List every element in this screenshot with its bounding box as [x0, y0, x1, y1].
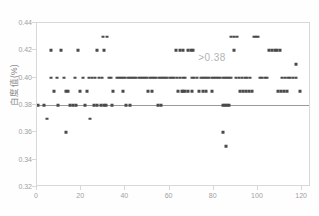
- data-point: [46, 117, 49, 120]
- data-point: [95, 104, 98, 107]
- data-point: [42, 104, 45, 107]
- data-point: [250, 90, 253, 93]
- x-tick-mark: [36, 186, 37, 190]
- data-point: [230, 76, 233, 79]
- data-point: [50, 49, 53, 52]
- data-point: [73, 76, 76, 79]
- data-point: [128, 104, 131, 107]
- data-point: [60, 49, 63, 52]
- data-point: [190, 90, 193, 93]
- data-point: [235, 35, 238, 38]
- data-point: [84, 104, 87, 107]
- data-point: [249, 76, 252, 79]
- data-point: [81, 76, 84, 79]
- data-point: [298, 90, 301, 93]
- reference-line: [37, 105, 310, 106]
- data-point: [100, 76, 103, 79]
- data-point: [112, 90, 115, 93]
- data-point: [50, 76, 53, 79]
- data-point: [64, 131, 67, 134]
- data-point: [124, 104, 127, 107]
- data-point: [57, 104, 60, 107]
- x-tick-label: 60: [154, 192, 184, 199]
- data-point: [111, 104, 114, 107]
- data-point: [75, 104, 78, 107]
- data-point: [256, 35, 259, 38]
- data-point: [52, 90, 55, 93]
- data-point: [295, 76, 298, 79]
- y-tick-label: 0.44: [4, 19, 32, 26]
- data-point: [63, 76, 66, 79]
- data-point: [67, 90, 70, 93]
- x-tick-mark: [257, 186, 258, 190]
- x-tick-label: 20: [65, 192, 95, 199]
- data-point: [55, 76, 58, 79]
- data-point: [184, 76, 187, 79]
- data-point: [221, 131, 224, 134]
- y-tick-label: 0.32: [4, 183, 32, 190]
- data-point: [105, 35, 108, 38]
- y-tick-label: 0.34: [4, 155, 32, 162]
- chart-root: 白度值(%) 0.440.420.400.380.360.340.32 0204…: [0, 0, 319, 216]
- data-point: [89, 117, 92, 120]
- x-tick-mark: [213, 186, 214, 190]
- data-point: [232, 49, 235, 52]
- x-tick-label: 100: [242, 192, 272, 199]
- data-point: [265, 76, 268, 79]
- data-point: [225, 145, 228, 148]
- data-point: [159, 104, 162, 107]
- data-point: [279, 49, 282, 52]
- data-point: [285, 90, 288, 93]
- data-point: [192, 49, 195, 52]
- data-point: [37, 104, 40, 107]
- data-point: [85, 90, 88, 93]
- data-point: [180, 90, 183, 93]
- data-point: [122, 90, 125, 93]
- y-axis-title: 白度值(%): [7, 45, 21, 125]
- data-point: [228, 104, 231, 107]
- x-tick-label: 80: [198, 192, 228, 199]
- data-point: [294, 63, 297, 66]
- data-point: [93, 76, 96, 79]
- data-point: [110, 76, 113, 79]
- x-tick-mark: [301, 186, 302, 190]
- y-tick-label: 0.36: [4, 128, 32, 135]
- x-tick-label: 120: [286, 192, 316, 199]
- x-tick-mark: [80, 186, 81, 190]
- data-point: [78, 90, 81, 93]
- data-point: [204, 90, 207, 93]
- x-tick-mark: [169, 186, 170, 190]
- data-point: [181, 49, 184, 52]
- data-point: [77, 49, 80, 52]
- data-point: [211, 90, 214, 93]
- x-tick-label: 40: [109, 192, 139, 199]
- data-point: [95, 49, 98, 52]
- data-point: [104, 104, 107, 107]
- plot-area: >0.38: [36, 22, 310, 186]
- data-point: [103, 49, 106, 52]
- data-point: [102, 35, 105, 38]
- x-tick-label: 0: [21, 192, 51, 199]
- data-point: [71, 104, 74, 107]
- data-point: [150, 90, 153, 93]
- x-tick-mark: [124, 186, 125, 190]
- threshold-annotation: >0.38: [198, 52, 225, 63]
